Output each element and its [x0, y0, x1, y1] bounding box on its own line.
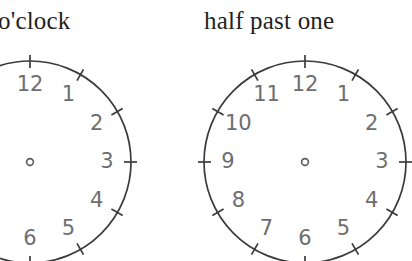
clock-left-numeral-3: 3 [100, 149, 113, 173]
clock-faces-container: 12123456121234567891011 [0, 0, 412, 261]
clock-left-numeral-4: 4 [90, 188, 103, 212]
clock-right-numeral-7: 7 [260, 216, 273, 240]
clock-left-numeral-1: 1 [62, 82, 75, 106]
clock-left: 12123456 [0, 55, 137, 261]
clock-right-numeral-4: 4 [365, 188, 378, 212]
clock-right-numeral-10: 10 [225, 111, 252, 135]
clock-left-numeral-6: 6 [23, 226, 36, 250]
clock-left-tick-4 [111, 209, 122, 216]
clock-right-dial-outline [204, 61, 406, 261]
heading-half-past-one: half past one [204, 8, 334, 33]
clock-right-center-hub [302, 159, 309, 166]
clock-right-numeral-3: 3 [375, 149, 388, 173]
clock-right-tick-1 [352, 69, 359, 80]
clock-right-tick-7 [252, 243, 259, 254]
clock-right-tick-4 [386, 209, 397, 216]
clock-left-center-hub [27, 159, 34, 166]
heading-oclock: o'clock [0, 8, 71, 33]
clock-right-numeral-5: 5 [337, 216, 350, 240]
clock-right-numeral-8: 8 [232, 188, 245, 212]
clock-right-numeral-6: 6 [298, 226, 311, 250]
clock-right-tick-2 [386, 109, 397, 116]
clock-right-numeral-2: 2 [365, 111, 378, 135]
clock-right-numeral-9: 9 [221, 149, 234, 173]
clock-right-numeral-11: 11 [253, 82, 280, 106]
worksheet-page: o'clock half past one 121234561212345678… [0, 0, 412, 261]
clock-faces-svg: 12123456121234567891011 [0, 0, 412, 261]
clock-left-numeral-5: 5 [62, 216, 75, 240]
clock-right-numeral-1: 1 [337, 82, 350, 106]
clock-left-numeral-2: 2 [90, 111, 103, 135]
clock-left-dial-outline [0, 61, 131, 261]
clock-right-tick-8 [212, 209, 223, 216]
clock-left-numeral-12: 12 [17, 72, 44, 96]
clock-right-tick-10 [212, 109, 223, 116]
clock-left-tick-1 [77, 69, 84, 80]
clock-right-tick-5 [352, 243, 359, 254]
clock-left-tick-2 [111, 109, 122, 116]
clock-right-tick-11 [252, 69, 259, 80]
clock-left-tick-5 [77, 243, 84, 254]
clock-right-numeral-12: 12 [292, 72, 319, 96]
clock-right: 121234567891011 [198, 55, 412, 261]
